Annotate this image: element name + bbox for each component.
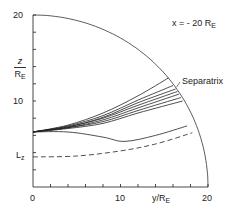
x-tick-10: 10	[115, 193, 125, 203]
x-tick-20: 20	[202, 193, 212, 203]
y-tick-10: 10	[13, 96, 23, 106]
field-lines	[33, 78, 192, 157]
lz-label: Lz	[16, 150, 25, 163]
chart-plot-area	[0, 0, 230, 213]
fraction-bar	[14, 67, 26, 68]
field-line	[33, 86, 173, 132]
plane-annotation: x = - 20 RE	[172, 18, 216, 31]
y-axis-label-re: RE	[12, 69, 28, 82]
separatrix-label: Separatrix	[182, 76, 223, 86]
y-axis-label-z: z	[12, 56, 28, 66]
field-line	[33, 98, 181, 132]
lz-dashed-line	[33, 133, 192, 157]
y-axis-label: z RE	[12, 56, 28, 82]
x-tick-0: 0	[30, 193, 35, 203]
field-line	[33, 94, 179, 132]
y-tick-20: 20	[13, 10, 23, 20]
separatrix-pointer	[177, 82, 181, 87]
field-line	[33, 89, 176, 132]
x-axis-label: y/RE	[152, 193, 170, 206]
